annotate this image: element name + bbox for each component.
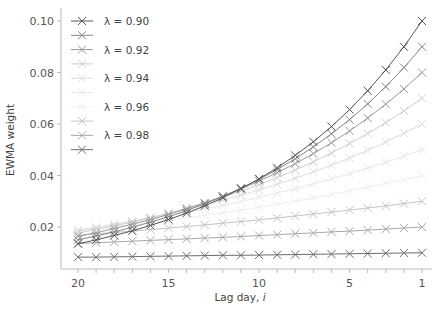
x-tick-label: 20 — [71, 277, 85, 290]
series-0.92 — [74, 69, 426, 241]
legend-label: λ = 0.98 — [104, 129, 149, 141]
legend-item: λ = 0.98 — [71, 129, 149, 141]
series-0.93 — [74, 94, 426, 237]
y-axis-label: EWMA weight — [4, 104, 16, 176]
x-tick-label: 10 — [252, 277, 266, 290]
legend-label: λ = 0.94 — [104, 72, 149, 84]
legend-item: λ = 0.94 — [71, 72, 149, 84]
legend-label: λ = 0.96 — [104, 101, 149, 113]
legend-item: λ = 0.92 — [71, 44, 149, 56]
x-tick-label: 15 — [162, 277, 176, 290]
ewma-weights-chart: 0.020.040.060.080.1020151051 λ = 0.90λ =… — [0, 0, 446, 315]
y-tick-label: 0.10 — [30, 15, 55, 28]
legend-item: λ = 0.90 — [71, 15, 149, 27]
legend-item — [71, 117, 93, 125]
legend-label: λ = 0.92 — [104, 44, 149, 56]
y-tick-label: 0.04 — [30, 170, 55, 183]
legend-label: λ = 0.90 — [104, 15, 149, 27]
y-tick-label: 0.06 — [30, 118, 55, 131]
legend-item — [71, 89, 93, 97]
legend-item — [71, 31, 93, 39]
legend: λ = 0.90λ = 0.92λ = 0.94λ = 0.96λ = 0.98 — [71, 15, 149, 154]
legend-item — [71, 60, 93, 68]
x-tick-label: 1 — [419, 277, 426, 290]
series-0.99 — [74, 249, 426, 261]
series-0.97 — [74, 197, 426, 239]
legend-item — [71, 146, 93, 154]
series-0.98 — [74, 223, 426, 247]
y-tick-label: 0.02 — [30, 221, 55, 234]
legend-item: λ = 0.96 — [71, 101, 149, 113]
x-axis-label: Lag day, i — [214, 291, 265, 303]
x-tick-label: 5 — [346, 277, 353, 290]
y-tick-label: 0.08 — [30, 67, 55, 80]
